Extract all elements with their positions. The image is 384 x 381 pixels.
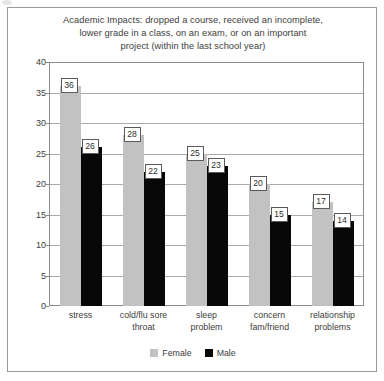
x-axis-label-line: fam/friend [238,321,301,333]
x-axis-label-line: sleep [175,309,238,321]
gridline [50,154,363,155]
chart-figure: Academic Impacts: dropped a course, rece… [7,7,377,372]
gridline [50,276,363,277]
plot-area [49,62,364,306]
x-axis-label-line: relationship [301,309,364,321]
gridline [50,215,363,216]
x-axis-label-line: stress [49,309,112,321]
gridline [50,123,363,124]
legend-swatch-icon [150,349,158,357]
chart-title-line-3: project (within the last school year) [8,40,378,53]
legend-label: Female [162,348,191,358]
x-axis-label-2: sleepproblem [175,309,238,334]
y-axis-tick-mark [45,306,49,307]
x-axis-label-1: cold/flu sorethroat [112,309,175,334]
chart-title-line-1: Academic Impacts: dropped a course, rece… [8,14,378,27]
chart-title-line-2: lower grade in a class, on an exam, or o… [8,27,378,40]
chart-legend: FemaleMale [8,348,378,358]
x-axis-label-line: cold/flu sore [112,309,175,321]
chart-title: Academic Impacts: dropped a course, rece… [8,14,378,54]
x-axis-label-line: concern [238,309,301,321]
legend-item-female: Female [150,348,191,358]
x-axis-label-0: stress [49,309,112,321]
x-axis-label-4: relationshipproblems [301,309,364,334]
legend-label: Male [217,348,236,358]
gridline [50,184,363,185]
legend-item-male: Male [205,348,236,358]
x-axis-label-line: problems [301,321,364,333]
x-axis-label-3: concernfam/friend [238,309,301,334]
x-axis-label-line: throat [112,321,175,333]
y-axis-tick-marks [8,62,49,306]
x-axis-label-line: problem [175,321,238,333]
gridline [50,245,363,246]
x-axis-category-labels: stresscold/flu sorethroatsleepproblemcon… [49,309,364,343]
scan-artifact [2,0,12,5]
legend-swatch-icon [205,349,213,357]
gridline [50,93,363,94]
